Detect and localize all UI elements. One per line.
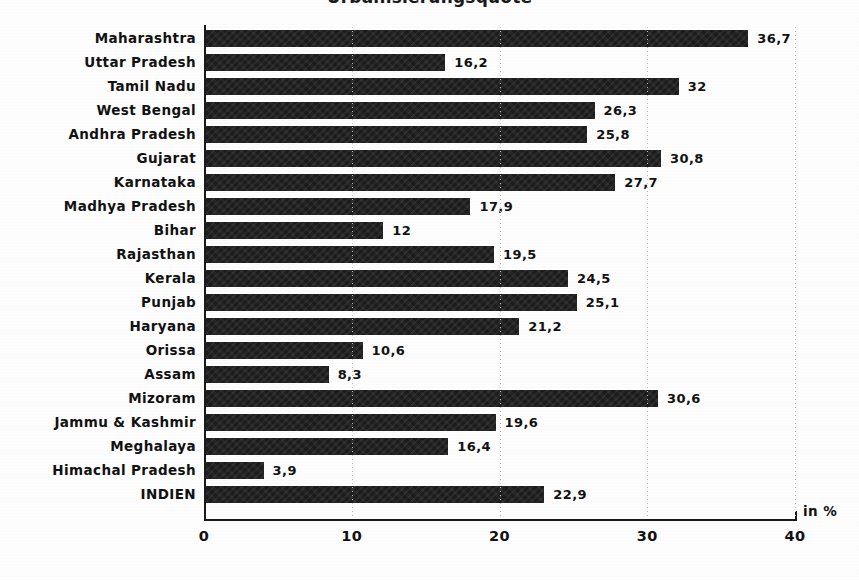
- bar-value-label: 25,1: [586, 295, 620, 310]
- bar-row: Mizoram30,6: [0, 387, 859, 411]
- category-label: Mizoram: [0, 390, 196, 406]
- bar: [206, 294, 577, 311]
- gridline-20: [500, 27, 501, 519]
- bar-row: Jammu & Kashmir19,6: [0, 411, 859, 435]
- bar: [206, 54, 445, 71]
- bar-row: Andhra Pradesh25,8: [0, 123, 859, 147]
- x-tick-label: 0: [199, 528, 210, 544]
- unit-label: in %: [803, 503, 837, 519]
- bar-value-label: 16,4: [457, 439, 491, 454]
- bar-row: Rajasthan19,5: [0, 243, 859, 267]
- x-axis-start-tick: [204, 511, 206, 520]
- bar: [206, 438, 448, 455]
- category-label: Himachal Pradesh: [0, 462, 196, 478]
- x-tick-label: 20: [489, 528, 510, 544]
- category-label: Rajasthan: [0, 246, 196, 262]
- bar-row: Punjab25,1: [0, 291, 859, 315]
- category-label: Madhya Pradesh: [0, 198, 196, 214]
- bar: [206, 126, 587, 143]
- bar-value-label: 21,2: [528, 319, 562, 334]
- category-label: INDIEN: [0, 486, 196, 502]
- category-label: Maharashtra: [0, 30, 196, 46]
- bar-value-label: 17,9: [479, 199, 513, 214]
- bar: [206, 30, 748, 47]
- bar: [206, 486, 544, 503]
- chart-title: Urbanisierungsquote: [0, 0, 859, 7]
- bar: [206, 198, 470, 215]
- bar: [206, 342, 363, 359]
- bar-value-label: 3,9: [273, 463, 297, 478]
- bar: [206, 246, 494, 263]
- category-label: Uttar Pradesh: [0, 54, 196, 70]
- bar-value-label: 22,9: [553, 487, 587, 502]
- bar-value-label: 12: [392, 223, 411, 238]
- bar: [206, 366, 329, 383]
- category-label: West Bengal: [0, 102, 196, 118]
- category-label: Assam: [0, 366, 196, 382]
- bar: [206, 222, 383, 239]
- bar-row: Himachal Pradesh3,9: [0, 459, 859, 483]
- bar-row: Uttar Pradesh16,2: [0, 51, 859, 75]
- category-label: Tamil Nadu: [0, 78, 196, 94]
- bar-value-label: 16,2: [454, 55, 488, 70]
- category-label: Bihar: [0, 222, 196, 238]
- bar-value-label: 24,5: [577, 271, 611, 286]
- bar-row: Kerala24,5: [0, 267, 859, 291]
- y-axis-line: [204, 25, 206, 521]
- chart-page: Urbanisierungsquote Maharashtra36,7Uttar…: [0, 0, 859, 580]
- gridline-10: [352, 27, 353, 519]
- bar-value-label: 10,6: [372, 343, 406, 358]
- bar-row: Gujarat30,8: [0, 147, 859, 171]
- bar-value-label: 19,5: [503, 247, 537, 262]
- bar: [206, 78, 679, 95]
- bar-value-label: 27,7: [624, 175, 658, 190]
- category-label: Haryana: [0, 318, 196, 334]
- bar-row: Karnataka27,7: [0, 171, 859, 195]
- bar-value-label: 32: [688, 79, 707, 94]
- category-label: Punjab: [0, 294, 196, 310]
- bar: [206, 270, 568, 287]
- bar: [206, 462, 264, 479]
- bar-row: Maharashtra36,7: [0, 27, 859, 51]
- category-label: Andhra Pradesh: [0, 126, 196, 142]
- bar-row: Tamil Nadu32: [0, 75, 859, 99]
- bar: [206, 390, 658, 407]
- x-tick-label: 40: [785, 528, 806, 544]
- bar-row: Madhya Pradesh17,9: [0, 195, 859, 219]
- x-tick-label: 10: [341, 528, 362, 544]
- category-label: Meghalaya: [0, 438, 196, 454]
- bar-row: Bihar12: [0, 219, 859, 243]
- bar: [206, 318, 519, 335]
- bar-value-label: 36,7: [757, 31, 791, 46]
- category-label: Karnataka: [0, 174, 196, 190]
- gridline-40: [795, 27, 796, 519]
- bar: [206, 102, 595, 119]
- bar-value-label: 30,6: [667, 391, 701, 406]
- bar-row: Orissa10,6: [0, 339, 859, 363]
- bar: [206, 174, 615, 191]
- bar-value-label: 30,8: [670, 151, 704, 166]
- bar-row: Assam8,3: [0, 363, 859, 387]
- x-tick-label: 30: [637, 528, 658, 544]
- bar-row: West Bengal26,3: [0, 99, 859, 123]
- gridline-30: [647, 27, 648, 519]
- category-label: Jammu & Kashmir: [0, 414, 196, 430]
- bar-row: Meghalaya16,4: [0, 435, 859, 459]
- x-axis-line: [204, 519, 797, 521]
- category-label: Gujarat: [0, 150, 196, 166]
- bar-value-label: 8,3: [338, 367, 362, 382]
- bar-value-label: 25,8: [596, 127, 630, 142]
- bar-value-label: 19,6: [505, 415, 539, 430]
- category-label: Orissa: [0, 342, 196, 358]
- category-label: Kerala: [0, 270, 196, 286]
- bar-row: INDIEN22,9: [0, 483, 859, 507]
- bar-row: Haryana21,2: [0, 315, 859, 339]
- bar: [206, 150, 661, 167]
- bar-value-label: 26,3: [604, 103, 638, 118]
